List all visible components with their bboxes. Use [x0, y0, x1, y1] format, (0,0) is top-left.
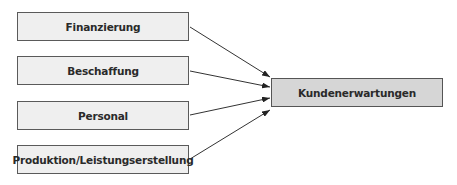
node-produktion-leistungserstellung: Produktion/Leistungserstellung [17, 145, 189, 174]
node-finanzierung: Finanzierung [17, 12, 189, 41]
node-label: Finanzierung [66, 21, 141, 33]
node-personal: Personal [17, 101, 189, 130]
arrow-produktion [190, 110, 270, 159]
node-kundenerwartungen: Kundenerwartungen [271, 78, 443, 107]
arrow-finanzierung [190, 27, 270, 77]
node-label: Produktion/Leistungserstellung [13, 154, 194, 166]
arrow-beschaffung [190, 71, 270, 87]
node-label: Beschaffung [67, 65, 139, 77]
arrow-personal [190, 98, 270, 115]
node-label: Personal [78, 110, 128, 122]
node-label: Kundenerwartungen [298, 87, 416, 99]
node-beschaffung: Beschaffung [17, 56, 189, 85]
